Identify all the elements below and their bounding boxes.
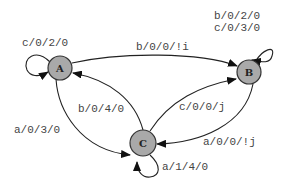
- label-b-self-line1: b/0/2/0: [214, 10, 260, 22]
- label-c-self: a/1/4/0: [162, 161, 208, 173]
- node-c-label: C: [139, 138, 147, 149]
- edge-a-to-c: [56, 79, 130, 155]
- node-a-label: A: [55, 63, 64, 74]
- edge-c-self-loop: [137, 155, 158, 177]
- node-b: B: [237, 60, 261, 84]
- node-b-label: B: [245, 67, 253, 78]
- label-c-to-b: c/0/0/j: [179, 101, 225, 113]
- label-a-to-c: a/0/3/0: [14, 124, 60, 136]
- label-a-to-b: b/0/0/!i: [136, 41, 189, 53]
- edge-b-self-loop: [252, 49, 273, 61]
- node-a: A: [48, 56, 72, 80]
- edge-b-to-c: [157, 84, 253, 144]
- node-c: C: [130, 130, 156, 156]
- edge-c-to-a: [73, 73, 143, 130]
- label-b-to-c: a/0/0/!j: [203, 136, 256, 148]
- edge-a-to-b: [72, 55, 237, 66]
- label-c-to-a: b/0/4/0: [78, 103, 124, 115]
- edge-a-self-loop: [26, 55, 50, 75]
- state-diagram: A B C c/0/2/0 b/0/0/!i a/0/3/0 b/0/4/0 c…: [0, 0, 284, 188]
- diagram-svg: A B C c/0/2/0 b/0/0/!i a/0/3/0 b/0/4/0 c…: [0, 0, 284, 188]
- label-a-self: c/0/2/0: [22, 37, 68, 49]
- label-b-self-line2: c/0/3/0: [214, 22, 260, 34]
